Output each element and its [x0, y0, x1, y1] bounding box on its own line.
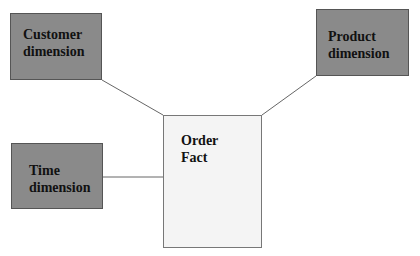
customer-label-line1: Customer [23, 26, 84, 43]
order-fact-label: Order Fact [181, 132, 218, 166]
customer-label-line2: dimension [23, 43, 84, 60]
edge-product-to-fact [262, 76, 316, 115]
time-label-line2: dimension [29, 179, 90, 196]
time-label-line1: Time [29, 162, 90, 179]
product-dimension-label: Product dimension [328, 28, 389, 62]
time-dimension-node: Time dimension [11, 143, 103, 209]
customer-dimension-node: Customer dimension [10, 13, 102, 80]
order-fact-node: Order Fact [163, 115, 262, 248]
edge-customer-to-fact [102, 80, 163, 115]
product-label-line1: Product [328, 28, 389, 45]
product-dimension-node: Product dimension [316, 9, 409, 76]
fact-label-line2: Fact [181, 149, 218, 166]
time-dimension-label: Time dimension [29, 162, 90, 196]
star-schema-diagram: Customer dimension Product dimension Tim… [0, 0, 420, 256]
customer-dimension-label: Customer dimension [23, 26, 84, 60]
fact-label-line1: Order [181, 132, 218, 149]
product-label-line2: dimension [328, 45, 389, 62]
